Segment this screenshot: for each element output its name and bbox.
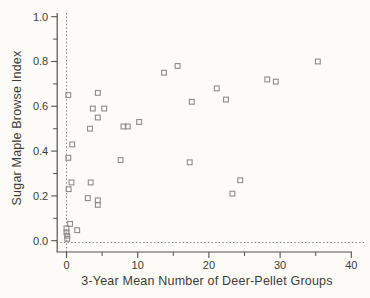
y-axis-title: Sugar Maple Browse Index: [10, 50, 24, 205]
data-point: [95, 90, 100, 95]
data-point: [137, 120, 142, 125]
x-axis-title: 3-Year Mean Number of Deer-Pellet Groups: [81, 274, 332, 288]
scatter-plot-figure: 0102030400.00.20.40.60.81.0 Sugar Maple …: [0, 0, 370, 298]
x-tick-label: 20: [203, 259, 215, 271]
x-tick-label: 0: [63, 259, 69, 271]
x-tick-label: 30: [274, 259, 286, 271]
y-tick-label: 0.4: [33, 145, 48, 157]
data-point: [88, 180, 93, 185]
data-point: [70, 142, 75, 147]
data-point: [118, 158, 123, 163]
data-point: [162, 70, 167, 75]
y-tick-label: 0.8: [33, 55, 48, 67]
data-point: [187, 160, 192, 165]
y-tick-label: 0.0: [33, 235, 48, 247]
data-point: [66, 187, 71, 192]
x-tick-label: 10: [132, 259, 144, 271]
data-point: [189, 99, 194, 104]
y-tick-label: 0.2: [33, 190, 48, 202]
data-point: [238, 178, 243, 183]
y-tick-label: 1.0: [33, 11, 48, 23]
data-point: [230, 191, 235, 196]
scatter-plot: 0102030400.00.20.40.60.81.0 Sugar Maple …: [0, 0, 370, 298]
data-point: [69, 180, 74, 185]
data-point: [175, 64, 180, 69]
data-point: [95, 115, 100, 120]
data-point: [214, 86, 219, 91]
data-point: [65, 237, 70, 242]
data-point: [224, 97, 229, 102]
data-point: [85, 196, 90, 201]
chart-layer: 0102030400.00.20.40.60.81.0: [33, 11, 366, 271]
y-tick-label: 0.6: [33, 100, 48, 112]
data-point: [90, 106, 95, 111]
data-point: [75, 228, 80, 233]
data-point: [273, 79, 278, 84]
x-tick-label: 40: [345, 259, 357, 271]
data-point: [88, 126, 93, 131]
data-point: [102, 106, 107, 111]
data-point: [265, 77, 270, 82]
data-point: [315, 59, 320, 64]
